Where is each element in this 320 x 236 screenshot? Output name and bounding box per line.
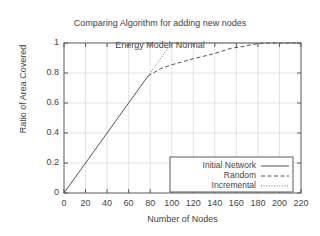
- chart-figure: Comparing Algorithm for adding new nodes…: [0, 0, 320, 236]
- series-line-2: [148, 43, 301, 76]
- y-tick-label: 1: [33, 37, 59, 47]
- legend-item-dashed: Random: [174, 170, 256, 180]
- y-tick-label: 0.8: [33, 67, 59, 77]
- legend-item-solid: Initial Network: [174, 160, 256, 170]
- y-tick-label: 0.6: [33, 97, 59, 107]
- x-tick-label: 220: [286, 198, 316, 208]
- series-line-0: [64, 76, 148, 193]
- y-tick-label: 0.2: [33, 157, 59, 167]
- legend-item-dotted: Incremental: [174, 180, 256, 190]
- series-line-1: [148, 43, 301, 76]
- y-tick-label: 0.4: [33, 127, 59, 137]
- y-tick-label: 0: [33, 187, 59, 197]
